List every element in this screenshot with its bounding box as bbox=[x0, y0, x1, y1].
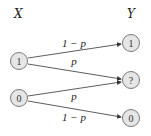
input-node-0: 0 bbox=[10, 89, 28, 107]
edge-label-x0-y0: 1 − p bbox=[62, 111, 86, 123]
output-label: Y bbox=[127, 7, 135, 21]
edge-label-x1-yq: p bbox=[71, 55, 77, 67]
output-node-1: 1 bbox=[122, 34, 140, 52]
output-node-0: 0 bbox=[122, 109, 140, 127]
edge-label-x0-yq: p bbox=[71, 90, 77, 102]
output-node-erasure: ? bbox=[122, 71, 140, 89]
input-label: X bbox=[14, 7, 23, 21]
input-node-1: 1 bbox=[10, 52, 28, 70]
edge-label-x1-y1: 1 − p bbox=[62, 37, 86, 49]
